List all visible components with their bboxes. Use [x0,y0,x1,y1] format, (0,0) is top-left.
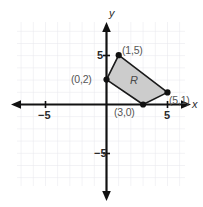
coordinate-plane-figure: x y −5 5 5 −5 (1,5) (0,2) (5,1) (3,0) R [0,0,203,207]
vertex-dot-3-0 [140,101,146,107]
x-axis-label: x [192,99,198,110]
point-label-5-1: (5,1) [169,95,190,106]
vertex-dot-1-5 [116,52,122,58]
tick-label-y-pos5: 5 [97,50,103,61]
region-label-r: R [130,75,138,86]
point-label-3-0: (3,0) [114,107,135,118]
point-label-0-2: (0,2) [71,74,92,85]
tick-label-y-neg5: −5 [94,148,107,159]
tick-label-x-neg5: −5 [38,110,51,121]
point-label-1-5: (1,5) [122,45,143,56]
y-axis-label: y [109,8,115,19]
vertex-dot-0-2 [103,77,109,83]
tick-label-x-pos5: 5 [164,110,170,121]
